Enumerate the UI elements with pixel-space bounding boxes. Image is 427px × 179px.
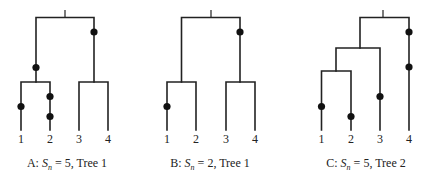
root-branch [36,18,94,83]
clade-1-2-branch [167,82,196,130]
panel-c-caption: C: Sn = 5, Tree 2 [326,156,405,172]
leaf-label: 3 [223,132,229,146]
mutation-dot [405,28,412,35]
mutation-dot [376,93,383,100]
mutation-dot [46,93,53,100]
mutation-dot [46,113,53,120]
leaf-label: 1 [18,132,24,146]
mutation-dot [163,103,170,110]
panel-b-tree: 1 2 3 4 B: Sn = 2, Tree 1 [163,10,258,172]
mutation-dot [347,113,354,120]
leaf-label: 3 [76,132,82,146]
panel-b-caption: B: Sn = 2, Tree 1 [170,156,249,172]
clade-12-3-branch [336,48,380,130]
root-branch [182,18,241,83]
clade-3-4-branch [226,82,255,130]
clade-3-4-branch [79,82,108,130]
root-branch [360,18,409,131]
leaf-label: 1 [319,132,325,146]
mutation-dot [318,103,325,110]
mutation-dot [32,64,39,71]
mutation-dot [405,63,412,70]
leaf-label: 1 [164,132,170,146]
coalescent-trees-figure: 1 2 3 4 A: Sn = 5, Tree 1 1 2 3 4 B: Sn … [0,0,427,179]
panel-a-caption: A: Sn = 5, Tree 1 [27,156,107,172]
mutation-dot [90,28,97,35]
leaf-label: 2 [193,132,199,146]
leaf-label: 4 [105,132,111,146]
clade-1-2-branch [21,82,50,130]
clade-1-2-branch [322,71,352,130]
leaf-label: 3 [377,132,383,146]
leaf-label: 2 [47,132,53,146]
leaf-label: 2 [348,132,354,146]
leaf-label: 4 [406,132,412,146]
leaf-label: 4 [252,132,258,146]
panel-c-tree: 1 2 3 4 C: Sn = 5, Tree 2 [318,10,413,172]
mutation-dot [17,103,24,110]
mutation-dot [236,28,243,35]
panel-a-tree: 1 2 3 4 A: Sn = 5, Tree 1 [17,10,111,172]
